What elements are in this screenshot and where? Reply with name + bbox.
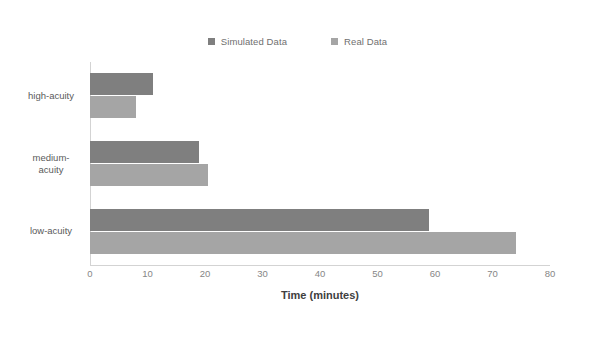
- y-axis-tick-label: medium-acuity: [20, 152, 82, 176]
- x-axis-tick-label: 40: [315, 268, 326, 279]
- bar: [90, 96, 136, 118]
- bar: [90, 209, 429, 231]
- legend-label-real-data: Real Data: [344, 36, 387, 47]
- x-axis-tick-label: 0: [87, 268, 92, 279]
- legend-label-simulated-data: Simulated Data: [221, 36, 287, 47]
- y-axis-tick-label: high-acuity: [20, 90, 82, 102]
- x-axis-tick-label: 50: [372, 268, 383, 279]
- y-axis-tick-label: low-acuity: [20, 225, 82, 237]
- legend-swatch-icon: [331, 38, 338, 45]
- y-axis-tick-label-line: medium-: [20, 152, 82, 164]
- legend-entry-real-data: Real Data: [331, 36, 387, 47]
- bar: [90, 141, 199, 163]
- x-axis-tick-label: 30: [257, 268, 268, 279]
- x-axis-tick-label: 10: [142, 268, 153, 279]
- x-axis-tick-label: 70: [487, 268, 498, 279]
- x-axis-tick-label: 20: [200, 268, 211, 279]
- legend-swatch-icon: [208, 38, 215, 45]
- y-axis-tick-label-line: acuity: [20, 164, 82, 176]
- x-axis-title: Time (minutes): [90, 289, 550, 301]
- x-axis-line: [90, 265, 550, 266]
- bar: [90, 232, 516, 254]
- bar-group: [90, 141, 550, 186]
- bar-group: [90, 209, 550, 254]
- y-axis-tick-label-line: low-acuity: [20, 225, 82, 237]
- y-axis-tick-labels: high-acuitymedium-acuitylow-acuity: [24, 62, 86, 265]
- bar: [90, 73, 153, 95]
- x-axis-tick-label: 80: [545, 268, 556, 279]
- plot-area: [90, 62, 550, 265]
- x-axis-tick-labels: 01020304050607080: [90, 268, 550, 282]
- bar: [90, 164, 208, 186]
- legend-entry-simulated-data: Simulated Data: [208, 36, 287, 47]
- y-axis-tick-label-line: high-acuity: [20, 90, 82, 102]
- chart-legend: Simulated Data Real Data: [0, 36, 595, 47]
- bar-group: [90, 73, 550, 118]
- bar-chart: Simulated Data Real Data Acuity levels h…: [0, 0, 595, 350]
- x-axis-tick-label: 60: [430, 268, 441, 279]
